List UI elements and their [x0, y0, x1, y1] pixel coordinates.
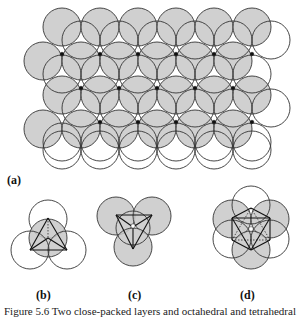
upper-layer-sphere	[157, 131, 195, 169]
upper-layer-sphere	[119, 131, 157, 169]
panel-label-b: (b)	[36, 288, 51, 303]
octahedral-site-marker	[117, 86, 121, 90]
octahedral-site-marker	[60, 52, 64, 56]
upper-layer-sphere	[195, 131, 233, 169]
octahedral-site-marker	[174, 120, 178, 124]
octahedral-site-marker	[155, 86, 159, 90]
octahedral-site-marker	[231, 86, 235, 90]
octahedral-site-marker	[174, 52, 178, 56]
octahedral-site-marker	[250, 52, 254, 56]
octahedral-site-marker	[136, 52, 140, 56]
upper-layer-sphere	[233, 55, 271, 93]
upper-layer-sphere	[252, 21, 290, 59]
octahedral-site-marker	[193, 86, 197, 90]
upper-layer-sphere	[233, 123, 271, 161]
panel-label-d: (d)	[240, 288, 255, 303]
octahedral-site-marker	[249, 227, 254, 232]
panel-label-c: (c)	[128, 288, 141, 303]
octahedral-site-marker	[79, 86, 83, 90]
panel-d-octahedral-site	[213, 186, 289, 269]
octahedral-site-marker	[212, 52, 216, 56]
upper-layer-sphere	[81, 131, 119, 169]
upper-layer-sphere	[252, 89, 290, 127]
panel-a-close-packed-layers	[24, 8, 290, 169]
panel-label-a: (a)	[7, 173, 21, 188]
figure-illustration	[0, 0, 302, 317]
octahedral-site-marker	[98, 52, 102, 56]
figure-caption: Figure 5.6 Two close-packed layers and o…	[4, 305, 302, 317]
octahedral-site-marker	[212, 120, 216, 124]
octahedral-site-marker	[98, 120, 102, 124]
octahedral-site-marker	[136, 120, 140, 124]
octahedral-site-marker	[250, 120, 254, 124]
upper-layer-sphere	[43, 131, 81, 169]
panel-b-tetrahedral-site	[11, 200, 86, 269]
tetrahedral-site-marker	[131, 224, 135, 228]
panel-c-tetrahedral-site-inverted	[97, 197, 171, 266]
